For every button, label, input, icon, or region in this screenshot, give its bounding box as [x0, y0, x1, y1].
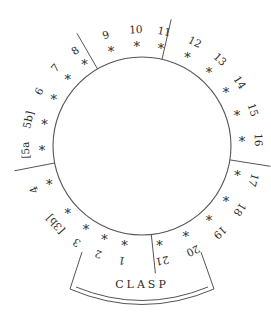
- divider-line: [151, 235, 155, 274]
- marker-star: *: [121, 238, 128, 253]
- position-label: 9: [101, 28, 111, 41]
- marker-star: *: [223, 85, 230, 100]
- position-label: 20: [185, 243, 202, 260]
- marker-star: *: [108, 44, 115, 59]
- position-markers: *1*2*3*[3b]*4*[5a*5b]*6*7*8*9*10*11*12*1…: [19, 23, 265, 268]
- position-13: *13: [206, 50, 230, 80]
- position-label: 4: [27, 184, 41, 195]
- marker-star: *: [239, 134, 246, 149]
- marker-star: *: [46, 177, 53, 192]
- position-label: [3b]: [43, 212, 66, 236]
- position-label: 16: [252, 133, 265, 147]
- marker-star: *: [156, 238, 163, 253]
- position-label: 2: [93, 248, 104, 262]
- position-21: *21: [155, 238, 170, 269]
- position-16: *16: [239, 133, 266, 149]
- position-label: 10: [129, 23, 143, 36]
- position-9: *9: [101, 28, 115, 59]
- marker-star: *: [134, 39, 141, 54]
- position-17: *17: [234, 168, 261, 188]
- clasp-bracket: CLASP: [70, 252, 214, 305]
- clasp-label: CLASP: [115, 278, 169, 291]
- marker-star: *: [206, 213, 213, 228]
- position-5b: *5b]: [20, 110, 48, 132]
- position-label: 12: [186, 33, 203, 50]
- position-label: 15: [246, 102, 262, 118]
- position-label: 1: [117, 255, 126, 268]
- position-label: 18: [231, 201, 248, 219]
- position-3b: *[3b]: [43, 206, 71, 236]
- marker-star: *: [223, 194, 230, 209]
- position-label: 11: [157, 24, 172, 38]
- position-label: [5a: [19, 141, 32, 158]
- marker-star: *: [83, 222, 90, 237]
- position-label: 14: [231, 73, 249, 91]
- clasp-position-diagram: *1*2*3*[3b]*4*[5a*5b]*6*7*8*9*10*11*12*1…: [0, 0, 271, 313]
- position-4: *4: [27, 177, 53, 196]
- position-2: *2: [93, 232, 108, 262]
- position-11: *11: [157, 24, 172, 56]
- marker-star: *: [158, 41, 165, 56]
- marker-star: *: [39, 143, 46, 158]
- marker-star: *: [101, 232, 108, 247]
- position-6: *6: [32, 85, 58, 107]
- marker-star: *: [50, 92, 57, 107]
- position-label: 6: [32, 85, 46, 97]
- position-10: *10: [129, 23, 143, 54]
- position-label: 13: [211, 50, 229, 68]
- position-18: *18: [223, 194, 249, 219]
- position-7: *7: [48, 61, 71, 87]
- position-label: 8: [69, 43, 81, 57]
- central-circle: [53, 57, 231, 235]
- marker-star: *: [234, 108, 241, 123]
- position-label: 17: [246, 172, 261, 188]
- position-1: *1: [117, 238, 128, 268]
- position-19: *19: [206, 213, 230, 242]
- position-3: *3: [70, 222, 89, 250]
- position-label: 7: [48, 61, 61, 74]
- marker-star: *: [234, 168, 241, 183]
- position-label: 19: [211, 224, 229, 242]
- marker-star: *: [81, 57, 88, 72]
- marker-star: *: [184, 50, 191, 65]
- marker-star: *: [64, 72, 71, 87]
- marker-star: *: [183, 229, 190, 244]
- position-5a: *[5a: [19, 141, 46, 158]
- marker-star: *: [64, 206, 71, 221]
- position-label: 5b]: [20, 110, 36, 130]
- position-15: *15: [234, 102, 261, 124]
- position-20: *20: [183, 229, 202, 260]
- position-label: 3: [70, 236, 82, 250]
- position-14: *14: [223, 73, 249, 99]
- position-label: 21: [155, 254, 170, 268]
- divider-line: [230, 160, 271, 166]
- position-12: *12: [184, 33, 204, 64]
- marker-star: *: [41, 117, 48, 132]
- marker-star: *: [206, 65, 213, 80]
- divider-line: [14, 163, 54, 171]
